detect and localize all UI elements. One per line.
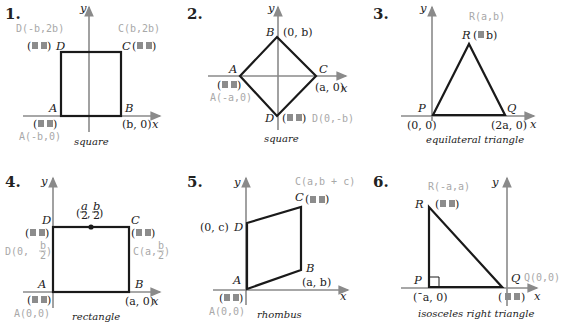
y-axis-label: y bbox=[419, 1, 427, 15]
given-Q-open: ( bbox=[498, 291, 502, 304]
vertex-Q: Q bbox=[511, 271, 521, 285]
blank-box bbox=[32, 42, 38, 49]
x-axis-label: x bbox=[340, 289, 347, 303]
given-P: (ˉa, 0) bbox=[413, 291, 448, 304]
blank-C-coords: ( bbox=[131, 227, 135, 240]
blank-paren: ) bbox=[47, 40, 51, 53]
figure-3-graph: y x R(a,b) R ( b) P Q (0, 0) (2a, 0) equ… bbox=[370, 0, 561, 165]
answer-R: R(-a,a) bbox=[428, 181, 470, 192]
figure-2-graph: y x B (0, b) A C ( ) (a, 0) A(-a,0) D ( … bbox=[185, 0, 370, 165]
blank-box bbox=[136, 229, 142, 236]
square-shape bbox=[61, 52, 121, 116]
blank-paren: ) bbox=[151, 227, 155, 240]
vertex-A: A bbox=[228, 62, 237, 76]
vertex-A: A bbox=[232, 273, 241, 287]
blank-paren: ) bbox=[53, 118, 57, 131]
blank-box bbox=[32, 296, 38, 303]
answer-A: A(0,0) bbox=[209, 306, 245, 317]
blank-box bbox=[440, 200, 446, 207]
answer-D: D(0, b 2 ) bbox=[5, 240, 52, 261]
blank-paren: ) bbox=[45, 227, 49, 240]
vertex-P: P bbox=[417, 101, 426, 115]
blank-box bbox=[287, 114, 293, 121]
figure-5-rhombus: 5. y x C(a,b + c) C ( ) (0, c) D B (a, b… bbox=[185, 165, 370, 325]
midpoint-dot bbox=[88, 224, 93, 229]
rectangle-shape bbox=[53, 227, 129, 292]
vertex-C: C bbox=[122, 39, 131, 53]
blank-C-coords: ( bbox=[305, 193, 309, 206]
svg-text:): ) bbox=[164, 246, 170, 257]
blank-box bbox=[514, 293, 520, 300]
answer-C: C(a,b + c) bbox=[295, 176, 355, 187]
answer-D: D(0,-b) bbox=[312, 113, 354, 124]
y-axis-label: y bbox=[233, 175, 241, 189]
given-P: (0, 0) bbox=[407, 119, 437, 132]
vertex-C: C bbox=[319, 62, 328, 76]
blank-box bbox=[505, 293, 511, 300]
given-Q: (2a, 0) bbox=[491, 119, 527, 132]
answer-Q: Q(0,0) bbox=[524, 272, 560, 283]
vertex-B: B bbox=[134, 277, 143, 291]
caption: rectangle bbox=[72, 311, 120, 322]
y-axis-label: y bbox=[491, 175, 499, 189]
blank-A-coords: ( bbox=[27, 294, 31, 307]
blank-box bbox=[137, 42, 143, 49]
figure-1-graph: y x D(-b,2b) C(b,2b) ( ) D C ( ) A B ( )… bbox=[0, 0, 185, 165]
answer-A: A(-b,0) bbox=[19, 131, 61, 142]
vertex-C: C bbox=[295, 190, 304, 204]
vertex-A: A bbox=[48, 101, 57, 115]
answer-R: R(a,b) bbox=[469, 11, 505, 22]
given-B: (0, b) bbox=[283, 26, 313, 39]
given-B: (b, 0) bbox=[122, 118, 152, 131]
triangle-shape bbox=[429, 207, 502, 287]
vertex-D: D bbox=[41, 213, 51, 227]
figure-4-graph: y x ( a 2 , b 2 ) D C ( ) ( ) D(0, b 2 ) bbox=[0, 165, 185, 325]
blank-D-coords: ( bbox=[282, 112, 286, 125]
svg-text:,: , bbox=[87, 207, 91, 220]
caption: isosceles right triangle bbox=[418, 308, 534, 319]
blank-C-coords: ( bbox=[132, 40, 136, 53]
caption: square bbox=[264, 133, 299, 144]
given-B: (a, b) bbox=[302, 276, 331, 289]
vertex-D: D bbox=[264, 111, 274, 125]
svg-text:): ) bbox=[99, 207, 103, 220]
vertex-D: D bbox=[233, 220, 243, 234]
blank-paren: ) bbox=[325, 193, 329, 206]
figure-6-graph: y x R(-a,a) R ( ) P Q Q(0,0) (ˉa, 0) ( )… bbox=[370, 165, 561, 325]
answer-A: A(-a,0) bbox=[210, 92, 252, 103]
midpoint-label: ( a 2 , b 2 ) bbox=[76, 199, 103, 222]
svg-text:): ) bbox=[46, 246, 52, 257]
right-angle-marker bbox=[429, 277, 439, 287]
blank-box bbox=[310, 196, 316, 203]
svg-text:D(0,: D(0, bbox=[5, 246, 29, 257]
y-axis-label: y bbox=[79, 1, 87, 15]
caption: square bbox=[74, 136, 109, 147]
svg-text:(: ( bbox=[76, 207, 80, 220]
figure-6-isosceles-right-triangle: 6. y x R(-a,a) R ( ) P Q Q(0,0) (ˉa, 0) … bbox=[370, 165, 561, 325]
x-axis-label: x bbox=[534, 289, 541, 303]
vertex-C: C bbox=[131, 213, 140, 227]
blank-D-coords: ( bbox=[27, 40, 31, 53]
blank-box bbox=[224, 294, 230, 301]
vertex-Q: Q bbox=[507, 101, 517, 115]
given-Q-close: ) bbox=[521, 291, 525, 304]
given-R-open: ( bbox=[473, 29, 477, 42]
caption: equilateral triangle bbox=[426, 134, 524, 145]
blank-paren: ) bbox=[152, 40, 156, 53]
triangle-shape bbox=[433, 44, 505, 115]
blank-paren: ) bbox=[455, 198, 459, 211]
vertex-D: D bbox=[55, 39, 65, 53]
vertex-A: A bbox=[37, 277, 46, 291]
svg-text:C(a,: C(a, bbox=[133, 246, 157, 257]
figure-3-equilateral-triangle: 3. y x R(a,b) R ( b) P Q (0, 0) (2a, 0) … bbox=[370, 0, 561, 165]
given-C: (a, 0) bbox=[315, 81, 344, 94]
blank-A-coords: ( bbox=[33, 118, 37, 131]
vertex-R: R bbox=[414, 197, 424, 211]
blank-A-coords: ( bbox=[219, 292, 223, 305]
blank-box bbox=[478, 31, 484, 38]
rhombus-shape bbox=[247, 207, 301, 289]
figure-2-square: 2. y x B (0, b) A C ( ) (a, 0) A(-a,0) D… bbox=[185, 0, 370, 165]
blank-paren: ) bbox=[239, 292, 243, 305]
x-axis-label: x bbox=[152, 117, 159, 131]
figure-1-square: 1. y x D(-b,2b) C(b,2b) ( ) D C ( ) A B … bbox=[0, 0, 185, 165]
